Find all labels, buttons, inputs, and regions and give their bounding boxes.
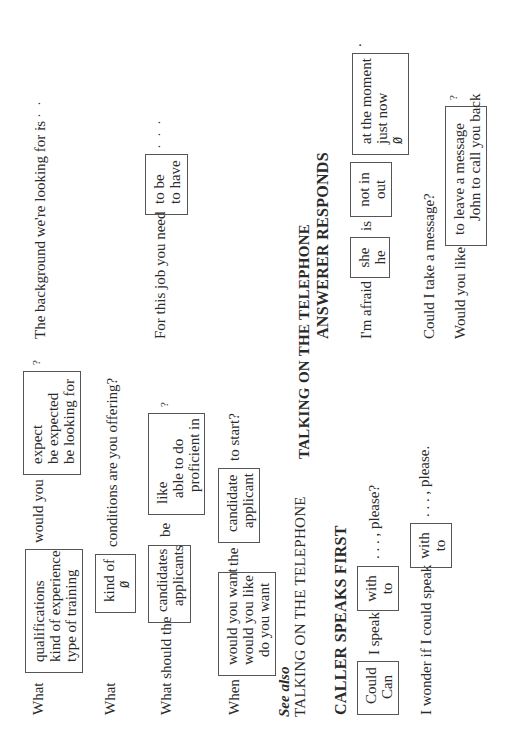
answerer-line1-suffix: . [348,43,365,47]
dictionary-page: What qualifications kind of experience t… [0,0,515,751]
q1-box2-option: expect [29,380,45,464]
q3-middle: be [157,523,174,537]
answerer-line1-box3-option: at the moment [358,62,374,144]
q1-box1-option: type of training [63,558,79,662]
answerer-line3-box: to leave a message John to call you back [445,106,487,246]
answerer-line1-box2-option: not in [356,168,372,211]
q4-option-box-1: would you want would you like do you wan… [218,572,276,676]
q3-option-box-1: candidates applicants [148,545,191,623]
background-ellipsis: . . . [28,99,45,129]
caller-line1-box1-option: Could [363,670,379,704]
q2-box-option-null: Ø [117,563,133,602]
q2-option-box: kind of Ø [95,554,136,613]
answerer-line1-box1-option: she [356,243,372,272]
q4-box1-option: do you want [256,581,272,665]
answerer-line1-box-3: at the moment just now Ø [352,53,409,155]
telephone-section-title: TALKING ON THE TELEPHONE [296,224,313,459]
q4-box1-option: would you like [240,581,256,665]
job-need-option-box: to be to have [145,154,188,215]
q2-prefix: What [102,683,119,715]
q1-box1-option: kind of experience [47,558,63,662]
answerer-line1-box3-option: just now [374,62,390,144]
answerer-line1-box-2: not in out [350,162,392,217]
q4-box2-option: candidate [224,477,240,532]
caller-line2-prefix: I wonder if I could speak [418,565,435,715]
answerer-line3-prefix: Would you like [452,247,469,339]
caller-line1-box2-option: to [379,573,395,604]
q2-suffix: conditions are you offering? [104,378,121,547]
answerer-line1-box3-option-null: Ø [390,62,406,144]
caller-line1-suffix: . . . , please? [366,485,383,559]
q1-box2-option: be looking for [61,380,77,464]
q3-prefix: What should the [158,617,175,715]
caller-line1-box-1: Could Can [357,661,399,715]
q4-box2-option: applicant [240,477,256,532]
answerer-line2-text: Could I take a message? [421,193,438,339]
caller-line1-middle: I speak [366,612,383,655]
q1-prefix: What [30,683,47,715]
q4-middle: the [225,548,242,566]
caller-heading: CALLER SPEAKS FIRST [332,525,349,715]
q4-box1-option: would you want [224,581,240,665]
q3-box2-option: proficient in [186,422,202,504]
see-also-link[interactable]: TALKING ON THE TELEPHONE [292,496,309,717]
q3-box2-option: like [154,422,170,504]
answerer-line3-suffix: ? [445,95,462,100]
caller-line2-box: with to [410,523,452,568]
q1-option-box-2: expect be expected be looking for [23,371,81,475]
job-need-ellipsis: . . . [148,118,165,148]
q3-box2-option: able to do [170,422,186,504]
q1-suffix: ? [28,360,45,365]
see-also-label: See also [276,667,293,717]
answerer-line3-box-option: John to call you back [467,115,483,235]
q4-prefix: When [226,679,243,715]
q1-option-box-1: qualifications kind of experience type o… [25,549,83,673]
caller-line1-box2-option: with [363,573,379,604]
job-need-box-option: to be [151,163,167,204]
caller-line2-suffix: . . . , please. [416,446,433,517]
q4-option-box-2: candidate applicant [218,468,260,543]
q1-box2-option: be expected [45,380,61,464]
answerer-line3-box-option: to leave a message [451,115,467,235]
job-need-box-option: to have [167,163,183,204]
q1-middle: would you [30,479,47,543]
q4-suffix: to start? [226,413,243,461]
answerer-line1-prefix: I'm afraid [358,281,375,339]
answerer-line1-box-1: she he [350,237,390,278]
answerer-heading: ANSWERER RESPONDS [314,152,331,339]
caller-line2-box-option: to [432,530,448,561]
q3-box1-option: applicants [170,554,186,612]
caller-line2-box-option: with [416,530,432,561]
q1-box1-option: qualifications [31,558,47,662]
q3-option-box-2: like able to do proficient in [148,413,205,515]
answerer-line1-middle: is [358,221,375,231]
caller-line1-box-2: with to [357,566,399,611]
q3-box1-option: candidates [154,554,170,612]
caller-line1-box1-option: Can [379,670,395,704]
answerer-line1-box2-option: out [372,168,388,211]
q2-box-option: kind of [101,563,117,602]
q3-suffix: ? [156,402,173,407]
background-text: The background we're looking for is [32,121,49,339]
job-need-text: For this job you need [152,212,169,340]
answerer-line1-box1-option: he [372,243,388,272]
